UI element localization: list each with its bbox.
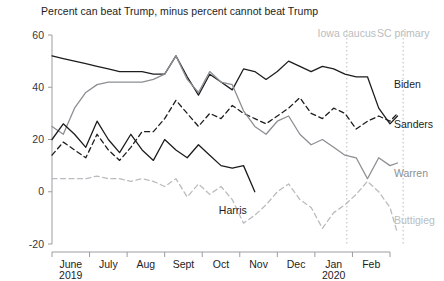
line-chart-plot: Iowa caucusSC primary6040200-20June2019J…: [0, 0, 444, 281]
y-tick-label-2: 20: [32, 133, 44, 145]
annotation-label-0: Iowa caucus: [318, 27, 376, 39]
x-tick-year-0: 2019: [59, 269, 83, 281]
x-tick-year-7: 2020: [322, 269, 346, 281]
x-tick-label-1: July: [99, 258, 118, 270]
series-line-biden: [52, 56, 398, 124]
x-tick-label-4: Oct: [213, 258, 229, 270]
y-tick-label-1: 40: [32, 81, 44, 93]
series-label-buttigieg: Buttigieg: [394, 214, 435, 226]
x-tick-label-6: Dec: [287, 258, 306, 270]
series-label-biden: Biden: [394, 78, 421, 90]
x-tick-label-8: Feb: [362, 258, 380, 270]
annotation-label-1: SC primary: [377, 27, 430, 39]
series-label-sanders: Sanders: [394, 118, 433, 130]
series-label-warren: Warren: [394, 167, 428, 179]
y-tick-label-3: 0: [38, 185, 44, 197]
chart-container: Percent can beat Trump, minus percent ca…: [0, 0, 444, 281]
series-line-sanders: [52, 98, 398, 161]
x-tick-label-2: Aug: [137, 258, 156, 270]
series-label-harris: Harris: [219, 204, 247, 216]
y-tick-label-4: -20: [29, 238, 44, 250]
x-tick-label-3: Sept: [173, 258, 195, 270]
x-tick-label-5: Nov: [249, 258, 268, 270]
y-tick-label-0: 60: [32, 29, 44, 41]
